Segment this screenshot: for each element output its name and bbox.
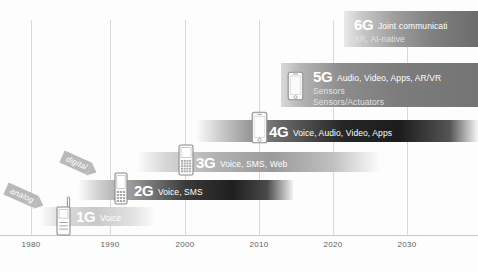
generation-label-6g: 6G [354,16,373,33]
gridline-2000 [185,20,186,235]
generation-label-3g: 3G [196,154,215,171]
generation-services-3g: Voice, SMS, Web [220,159,287,169]
brick-phone-icon-1g [55,196,77,236]
generation-services-6g: Joint communicati [378,21,448,31]
generation-services-1g: Voice [100,213,121,223]
generation-label-5g: 5G [313,68,332,85]
generation-bar-2g: 2G Voice, SMS [78,180,293,200]
generation-label-2g: 2G [134,182,153,199]
smartphone-icon-5g [287,71,304,101]
year-label-2000: 2000 [176,240,195,249]
generation-bar-5g: 5G Audio, Video, Apps, AR/VR Sensors Sen… [281,63,478,107]
gridline-1990 [110,20,111,235]
generation-bar-6g: 6G Joint communicati XR, AI-native [344,11,478,47]
timeline-chart: 6G Joint communicati XR, AI-native 5G Au… [0,0,478,272]
generation-sub1-5g: Sensors [313,87,441,96]
generation-bar-3g: 3G Voice, SMS, Web [137,152,380,172]
generation-services-2g: Voice, SMS [158,187,203,197]
year-label-2030: 2030 [398,240,417,249]
year-label-1980: 1980 [22,240,41,249]
generation-sub2-5g: Sensors/Actuators [313,98,441,107]
year-label-2010: 2010 [250,240,269,249]
annotation-analog: analog [3,183,46,212]
annotation-digital-label: digital [65,154,89,171]
generation-bar-4g: 4G Voice, Audio, Video, Apps [196,120,478,142]
year-label-2020: 2020 [324,240,343,249]
qwerty-phone-icon-3g [178,144,194,176]
smartphone-icon-4g [251,111,268,144]
generation-label-4g: 4G [269,123,288,140]
year-label-1990: 1990 [101,240,120,249]
generation-services-4g: Voice, Audio, Video, Apps [293,128,392,138]
generation-label-1g: 1G [76,208,95,225]
candybar-phone-icon-2g [114,172,128,205]
generation-sub1-6g: XR, AI-native [354,35,448,44]
annotation-digital: digital [59,151,99,178]
generation-services-5g: Audio, Video, Apps, AR/VR [337,73,441,83]
